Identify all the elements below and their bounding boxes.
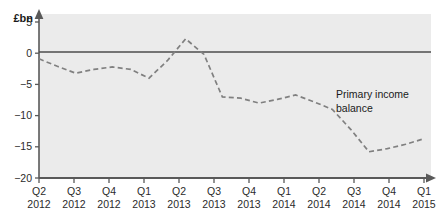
- x-axis-tick-label-quarter: Q4: [102, 185, 116, 197]
- y-axis-tick-label: 0: [26, 47, 32, 59]
- y-axis-tick-label: −15: [14, 140, 32, 152]
- x-axis-tick-label-quarter: Q3: [347, 185, 361, 197]
- x-axis-tick-label-quarter: Q1: [137, 185, 151, 197]
- x-axis-tick-label-year: 2014: [307, 198, 331, 210]
- y-axis-tick-label: −10: [14, 109, 32, 121]
- x-axis-tick-label-year: 2012: [97, 198, 121, 210]
- y-axis-tick-labels: 50−5−10−15−20: [14, 16, 32, 184]
- x-axis-tick-label-year: 2013: [167, 198, 191, 210]
- x-axis-tick-label-quarter: Q4: [382, 185, 396, 197]
- series-annotation-line-1: Primary income: [336, 88, 409, 100]
- x-axis-tick-label-year: 2013: [237, 198, 261, 210]
- y-axis-unit-label: £bn: [13, 12, 33, 24]
- x-axis-tick-label-quarter: Q3: [67, 185, 81, 197]
- x-axis-tick-label-quarter: Q1: [417, 185, 431, 197]
- chart-container: 50−5−10−15−20 Q22012Q32012Q42012Q12013Q2…: [0, 0, 441, 215]
- x-axis-tick-labels: Q22012Q32012Q42012Q12013Q22013Q32013Q420…: [27, 185, 436, 210]
- x-axis-tick-label-year: 2013: [202, 198, 226, 210]
- primary-income-balance-line-chart: 50−5−10−15−20 Q22012Q32012Q42012Q12013Q2…: [0, 0, 441, 215]
- x-axis-tick-label-quarter: Q3: [207, 185, 221, 197]
- y-axis-tick-label: −5: [20, 78, 32, 90]
- x-axis-tick-label-year: 2013: [132, 198, 156, 210]
- x-axis-tick-label-quarter: Q4: [242, 185, 256, 197]
- x-axis-tick-label-quarter: Q1: [277, 185, 291, 197]
- x-axis-tick-label-year: 2014: [342, 198, 366, 210]
- x-axis-tick-label-year: 2015: [412, 198, 436, 210]
- x-axis-tick-label-year: 2012: [62, 198, 86, 210]
- series-annotation-line-2: balance: [336, 102, 373, 114]
- y-axis-tick-label: −20: [14, 172, 32, 184]
- x-axis-tick-label-year: 2014: [272, 198, 296, 210]
- x-axis-tick-label-year: 2012: [27, 198, 51, 210]
- x-axis-tick-label-quarter: Q2: [172, 185, 186, 197]
- x-axis-tick-label-quarter: Q2: [312, 185, 326, 197]
- x-axis-tick-label-quarter: Q2: [32, 185, 46, 197]
- x-axis-tick-label-year: 2014: [377, 198, 401, 210]
